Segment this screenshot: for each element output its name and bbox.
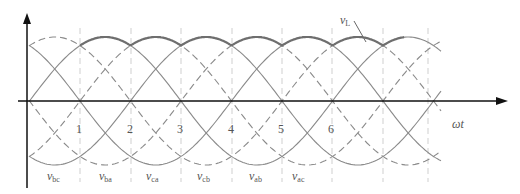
label-vcb: vcb — [197, 169, 210, 184]
label-sub: ba — [104, 175, 112, 184]
envelope-label-sub: L — [345, 19, 350, 28]
label-vab: vab — [249, 169, 262, 184]
label-sub: ca — [151, 175, 158, 184]
label-vac: vac — [292, 169, 304, 184]
segment-number-6: 6 — [328, 122, 334, 137]
label-vca: vca — [146, 169, 158, 184]
label-vba: vba — [99, 169, 112, 184]
segment-number-1: 1 — [76, 122, 82, 137]
segment-number-5: 5 — [278, 122, 284, 137]
x-axis-label: ωt — [452, 117, 464, 132]
x-axis-arrow-icon — [496, 97, 508, 105]
y-axis-arrow-icon — [23, 13, 31, 24]
envelope-label: vL — [340, 13, 350, 28]
label-sub: cb — [202, 175, 210, 184]
waveform-diagram — [0, 0, 520, 194]
segment-number-2: 2 — [127, 122, 133, 137]
envelope-pointer — [354, 21, 366, 42]
segment-number-4: 4 — [228, 122, 234, 137]
label-vbc: vbc — [47, 169, 60, 184]
segment-number-3: 3 — [177, 122, 183, 137]
label-sub: ac — [297, 175, 304, 184]
label-sub: bc — [52, 175, 60, 184]
label-sub: ab — [254, 175, 262, 184]
output-envelope — [80, 37, 404, 46]
